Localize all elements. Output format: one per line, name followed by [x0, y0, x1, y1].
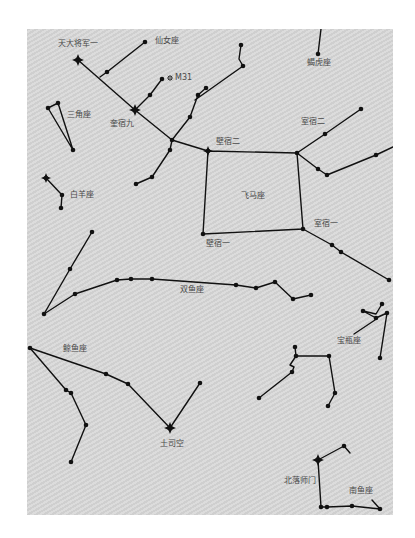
star-dot: [168, 148, 173, 153]
label-pegasus: 飞马座: [241, 190, 265, 200]
star-dot: [201, 232, 206, 237]
star-dot: [295, 151, 300, 156]
star-dot: [126, 382, 131, 387]
constellation-line: [303, 229, 389, 280]
star-dot: [105, 70, 110, 75]
constellation-lacerta: [195, 29, 321, 100]
star-dot: [71, 148, 76, 153]
star-dot: [325, 173, 330, 178]
star-dot: [170, 138, 175, 143]
star-dot: [326, 404, 331, 409]
star-dot: [239, 43, 244, 48]
constellation-piscis-austrinus: [318, 446, 380, 509]
label-beiluoshimen: 北落师门: [284, 475, 316, 485]
label-bisu-yi: 壁宿一: [206, 238, 230, 248]
star-dot: [60, 193, 65, 198]
star-dot: [148, 93, 153, 98]
label-triangulum: 三角座: [67, 109, 91, 119]
star-dot: [254, 286, 259, 291]
star-dot: [257, 396, 262, 401]
star-dot: [387, 278, 392, 283]
star-dot: [350, 504, 355, 509]
constellation-pisces: [44, 232, 311, 314]
star-dot: [327, 354, 332, 359]
label-aquarius: 宝瓶座: [337, 335, 361, 345]
beiluoshimen-star-icon: [312, 454, 324, 466]
star-dot: [84, 423, 89, 428]
constellation-pegasus: [203, 109, 393, 280]
star-dot: [134, 182, 139, 187]
star-dot: [293, 345, 298, 350]
label-cetus: 鲸鱼座: [63, 343, 87, 353]
star-dot: [64, 388, 69, 393]
star-dot: [59, 206, 64, 211]
constellation-aries: [46, 178, 62, 208]
label-m31: M31: [175, 73, 192, 82]
star-dot: [359, 107, 364, 112]
constellation-line: [297, 109, 361, 153]
star-dot: [46, 106, 51, 111]
star-dot: [316, 167, 321, 172]
star-dot: [316, 52, 321, 57]
constellation-line: [30, 348, 86, 462]
star-dot: [69, 460, 74, 465]
label-piscis-austrinus: 南鱼座: [349, 485, 373, 495]
star-dot: [273, 280, 278, 285]
star-dot: [69, 391, 74, 396]
label-andromeda: 仙女座: [155, 35, 179, 45]
label-kuisu-jiu: 奎宿九: [110, 118, 134, 128]
star-dot: [361, 309, 366, 314]
constellation-line: [296, 356, 335, 406]
star-dot: [374, 153, 379, 158]
star-dot: [323, 132, 328, 137]
star-dot: [325, 505, 330, 510]
star-dot: [319, 505, 324, 510]
star-map: 天大将军一仙女座M31三角座奎宿九蝎虎座室宿二壁宿二白羊座飞马座室宿一壁宿一双鱼…: [27, 29, 393, 515]
star-dot: [56, 101, 61, 106]
star-dot: [42, 312, 47, 317]
label-lacerta: 蝎虎座: [307, 57, 331, 67]
label-tusikong: 土司空: [160, 438, 184, 448]
star-dot: [150, 175, 155, 180]
star-dot: [378, 507, 383, 512]
star-dot: [291, 297, 296, 302]
star-labels: 天大将军一仙女座M31三角座奎宿九蝎虎座室宿二壁宿二白羊座飞马座室宿一壁宿一双鱼…: [58, 35, 373, 495]
label-pisces: 双鱼座: [180, 284, 204, 294]
star-dot: [150, 277, 155, 282]
star-dot: [90, 230, 95, 235]
star-dot: [330, 243, 335, 248]
constellation-line: [44, 232, 92, 314]
star-dot: [160, 77, 165, 82]
label-shisu-yi: 室宿一: [314, 218, 338, 228]
star-dot: [198, 381, 203, 386]
bisu-er-star-icon: [203, 146, 213, 156]
star-dot: [290, 370, 295, 375]
label-bisu-er: 壁宿二: [216, 136, 240, 146]
constellation-line: [318, 446, 350, 460]
star-dot: [339, 250, 344, 255]
star-dot: [188, 115, 193, 120]
star-dot: [374, 316, 379, 321]
constellation-line: [44, 279, 311, 314]
m31-galaxy-icon: [167, 75, 173, 81]
star-dot: [196, 93, 201, 98]
constellation-aquarius: [259, 304, 387, 406]
constellation-line: [318, 460, 380, 509]
star-chart-panel: 天大将军一仙女座M31三角座奎宿九蝎虎座室宿二壁宿二白羊座飞马座室宿一壁宿一双鱼…: [27, 29, 393, 515]
star-dot: [380, 302, 385, 307]
star-dot: [294, 354, 299, 359]
constellation-lines: [30, 29, 393, 509]
label-tiandajiangjun-yi: 天大将军一: [58, 38, 98, 48]
star-dot: [204, 86, 209, 91]
star-dot: [68, 267, 73, 272]
star-dot: [241, 64, 246, 69]
constellation-line: [30, 348, 200, 428]
star-dot: [309, 293, 314, 298]
constellation-line: [297, 147, 393, 175]
constellation-line: [318, 29, 321, 54]
star-dot: [301, 227, 306, 232]
label-shisu-er: 室宿二: [301, 116, 325, 126]
constellation-andromeda: [78, 42, 208, 184]
constellation-line: [376, 313, 387, 358]
label-aries: 白羊座: [70, 189, 94, 199]
